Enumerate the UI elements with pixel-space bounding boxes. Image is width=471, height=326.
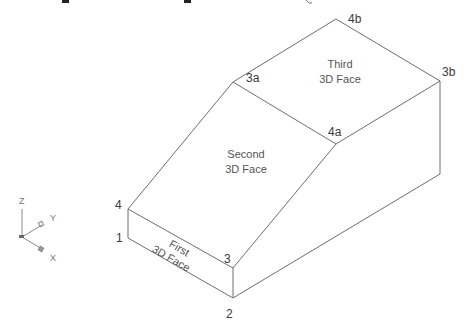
second-face-label-line1: Second bbox=[227, 148, 264, 160]
right-side-edges bbox=[233, 81, 440, 298]
wireframe-drawing: 4 1 2 3 3a 4a 4b 3b First 3D Face Second… bbox=[0, 0, 471, 326]
vertex-label-2: 2 bbox=[226, 307, 233, 321]
vertex-labels: 4 1 2 3 3a 4a 4b 3b bbox=[115, 12, 456, 321]
vertex-label-3a: 3a bbox=[246, 71, 260, 85]
vertex-label-1: 1 bbox=[116, 231, 123, 245]
second-face-label-line2: 3D Face bbox=[225, 163, 267, 175]
diagram-canvas: 4 1 2 3 3a 4a 4b 3b First 3D Face Second… bbox=[0, 0, 471, 326]
vertex-label-3: 3 bbox=[224, 252, 231, 266]
vertex-label-4a: 4a bbox=[328, 125, 342, 139]
vertex-label-4b: 4b bbox=[348, 12, 362, 26]
ucs-z-label: Z bbox=[19, 196, 25, 206]
ucs-x-axis bbox=[22, 237, 42, 249]
third-face-label-line1: Third bbox=[327, 58, 352, 70]
third-face-label-line2: 3D Face bbox=[319, 73, 361, 85]
cropped-title-fragments bbox=[62, 0, 312, 3]
second-3d-face bbox=[128, 82, 336, 268]
ucs-icon: Z Y X bbox=[19, 196, 56, 263]
ucs-y-label: Y bbox=[50, 213, 56, 223]
vertex-label-3b: 3b bbox=[442, 65, 456, 79]
ucs-x-label: X bbox=[50, 253, 56, 263]
ucs-y-axis bbox=[22, 225, 42, 237]
vertex-label-4: 4 bbox=[115, 198, 122, 212]
